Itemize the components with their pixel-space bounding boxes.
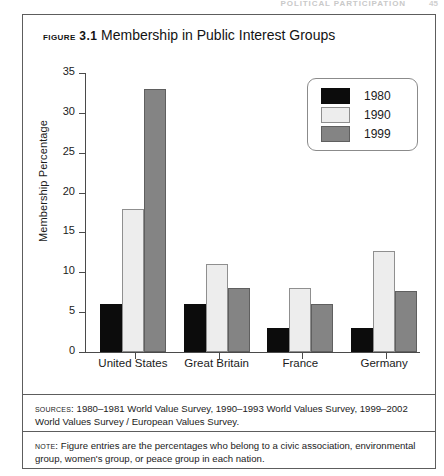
bar-great-britain-1999 <box>228 288 250 352</box>
y-axis-tick: 30 <box>79 113 85 114</box>
y-axis-tick-label: 30 <box>63 105 75 117</box>
legend-swatch-1990 <box>321 107 350 123</box>
bar-great-britain-1980 <box>184 304 206 352</box>
legend-label-1980: 1980 <box>364 89 391 103</box>
divider-above-note <box>23 431 435 432</box>
note-tag: NOTE: <box>35 440 58 451</box>
bar-france-1990 <box>289 288 311 352</box>
y-axis-tick: 5 <box>79 312 85 313</box>
legend-label-1999: 1999 <box>364 127 391 141</box>
bar-germany-1999 <box>395 291 417 352</box>
bar-germany-1990 <box>373 251 395 352</box>
bar-germany-1980 <box>351 328 373 352</box>
legend-item-1999: 1999 <box>321 125 391 143</box>
y-axis-tick: 0 <box>79 352 85 353</box>
sources-text: 1980–1981 World Value Survey, 1990–1993 … <box>35 403 408 427</box>
y-axis-tick-label: 0 <box>69 344 75 356</box>
chart-area: Membership Percentage 05101520253035Unit… <box>23 15 437 390</box>
bar-united-states-1990 <box>122 209 144 352</box>
note-text: Figure entries are the percentages who b… <box>35 440 415 464</box>
sources-tag: SOURCES: <box>35 403 74 414</box>
y-axis-line <box>85 73 86 353</box>
y-axis-tick-label: 5 <box>69 304 75 316</box>
y-axis-tick-label: 35 <box>63 65 75 77</box>
legend-item-1980: 1980 <box>321 87 391 105</box>
running-head-text: POLITICAL PARTICIPATION <box>281 0 406 8</box>
y-axis-tick-label: 25 <box>63 145 75 157</box>
divider-above-sources <box>23 394 435 395</box>
running-head-page-number: 45 <box>429 0 438 8</box>
sources-block: SOURCES: 1980–1981 World Value Survey, 1… <box>35 403 427 429</box>
y-axis-tick-label: 15 <box>63 224 75 236</box>
bar-united-states-1999 <box>144 89 166 352</box>
running-head: POLITICAL PARTICIPATION 45 <box>0 0 444 14</box>
y-axis-tick-label: 20 <box>63 185 75 197</box>
note-block: NOTE: Figure entries are the percentages… <box>35 440 427 466</box>
y-axis-tick: 20 <box>79 193 85 194</box>
figure-frame: FIGURE 3.1 Membership in Public Interest… <box>22 14 436 469</box>
x-axis-category-label: France <box>282 357 318 369</box>
y-axis-tick: 15 <box>79 232 85 233</box>
legend-swatch-1999 <box>321 126 350 142</box>
bar-united-states-1980 <box>100 304 122 352</box>
bar-great-britain-1990 <box>206 264 228 352</box>
y-axis-tick: 10 <box>79 272 85 273</box>
chart-legend: 198019901999 <box>307 78 418 151</box>
x-axis-category-label: Germany <box>360 357 407 369</box>
y-axis-label: Membership Percentage <box>37 96 49 266</box>
legend-item-1990: 1990 <box>321 106 391 124</box>
x-axis-category-label: Great Britain <box>184 357 249 369</box>
y-axis-tick-label: 10 <box>63 264 75 276</box>
y-axis-tick: 35 <box>79 73 85 74</box>
legend-swatch-1980 <box>321 88 350 104</box>
bar-france-1980 <box>267 328 289 352</box>
legend-label-1990: 1990 <box>364 108 391 122</box>
bar-france-1999 <box>311 304 333 352</box>
y-axis-tick: 25 <box>79 153 85 154</box>
x-axis-category-label: United States <box>98 357 167 369</box>
